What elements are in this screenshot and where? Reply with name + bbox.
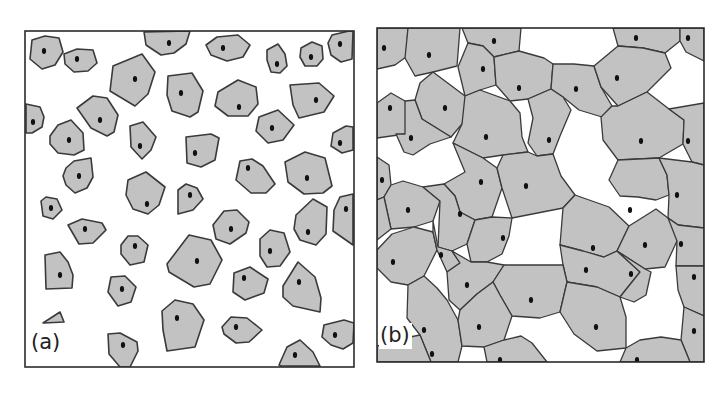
cell-polygon [405,28,460,76]
seed-point-icon [584,267,588,273]
seed-point-icon [409,135,413,141]
seed-point-icon [574,86,578,92]
panel-b-label: (b) [379,323,412,349]
seed-point-icon [388,105,392,111]
panel-b: (b) [0,0,720,393]
seed-point-icon [501,235,505,241]
seed-point-icon [675,192,679,198]
seed-point-icon [484,134,488,140]
seed-point-icon [679,241,683,247]
seed-point-icon [628,207,632,213]
seed-point-icon [391,259,395,265]
seed-point-icon [443,105,447,111]
seed-point-icon [524,183,528,189]
seed-point-icon [547,137,551,143]
seed-point-icon [477,324,481,330]
seed-point-icon [629,271,633,277]
seed-point-icon [481,66,485,72]
seed-point-icon [422,327,426,333]
seed-point-icon [517,85,521,91]
seed-point-icon [529,297,533,303]
seed-point-icon [643,242,647,248]
cell-polygon [377,227,437,285]
seed-point-icon [692,328,696,334]
seed-point-icon [430,351,434,357]
seed-point-icon [634,35,638,41]
seed-point-icon [692,274,696,280]
seed-point-icon [686,138,690,144]
figure-voronoi-growth: (a) (b) [0,0,720,393]
cell-polygon [528,89,571,156]
seed-point-icon [594,324,598,330]
seed-point-icon [427,52,431,58]
seed-point-icon [686,35,690,41]
seed-point-icon [406,207,410,213]
seed-point-icon [479,179,483,185]
cell-polygon [601,92,684,160]
cell-polygon [377,28,408,69]
panel-b-canvas [0,0,720,393]
cell-polygon [609,158,669,200]
seed-point-icon [439,252,443,258]
seed-point-icon [465,282,469,288]
seed-point-icon [639,138,643,144]
cell-polygon [467,217,512,262]
seed-point-icon [591,245,595,251]
cell-polygon [620,337,690,362]
seed-point-icon [458,211,462,217]
seed-point-icon [615,75,619,81]
seed-point-icon [382,45,386,51]
cell-polygon [676,266,704,316]
seed-point-icon [492,38,496,44]
cell-polygon [680,28,704,61]
seed-point-icon [380,177,384,183]
